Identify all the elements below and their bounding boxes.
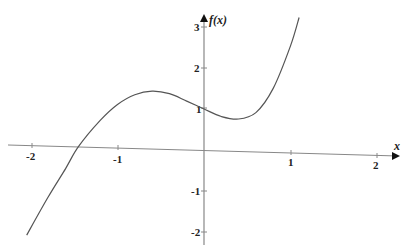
function-plot: x f(x) -2 -1 1 2 3 2 1 -1 -2 <box>0 0 412 252</box>
function-curve <box>27 18 299 236</box>
y-tick-label: 3 <box>194 21 200 33</box>
x-tick-label: 2 <box>373 159 379 171</box>
x-axis-arrow-icon <box>392 152 400 160</box>
y-axis-arrow-icon <box>200 14 208 22</box>
y-tick-label: -2 <box>191 226 201 238</box>
y-axis-label: f(x) <box>209 13 227 27</box>
x-tick-label: -2 <box>26 150 36 162</box>
x-axis <box>8 145 398 156</box>
y-tick-label: 1 <box>196 103 202 115</box>
x-tick-label: -1 <box>113 153 122 165</box>
y-tick-label: 2 <box>194 62 200 74</box>
x-tick-label: 1 <box>288 156 294 168</box>
x-axis-label: x <box>393 139 400 153</box>
y-tick-label: -1 <box>191 185 200 197</box>
